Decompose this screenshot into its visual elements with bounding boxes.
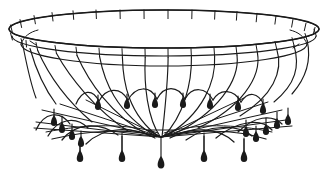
rim-inner-lip-front bbox=[12, 36, 316, 56]
rim-band-lower-front-edge bbox=[9, 29, 319, 48]
teardrop-finial bbox=[207, 94, 213, 109]
wire-basket-bowl-drawing bbox=[0, 0, 329, 175]
rim-left-notch-detail bbox=[30, 41, 36, 45]
finial-row-lower bbox=[77, 136, 247, 169]
teardrop-finial bbox=[152, 93, 158, 108]
wire-rib bbox=[165, 56, 215, 136]
rim-band-lower-back-edge bbox=[9, 10, 319, 29]
wire-rib bbox=[240, 49, 279, 116]
scallop-arc bbox=[213, 92, 241, 102]
scallop-arc bbox=[157, 89, 185, 100]
rim-band-dividers-back bbox=[11, 10, 316, 35]
teardrop-finial bbox=[285, 108, 291, 125]
wire-rib bbox=[162, 58, 168, 138]
scallop-arc bbox=[128, 89, 157, 100]
teardrop-finial bbox=[51, 109, 57, 126]
teardrop-finial bbox=[158, 137, 165, 169]
illustration-canvas: Wire Basket Bowl Line Drawing wire-frame… bbox=[0, 0, 329, 175]
teardrop-finial bbox=[260, 99, 266, 114]
rim-left-notch-divider bbox=[26, 41, 27, 48]
rim-band-group bbox=[9, 10, 319, 66]
scallop-arc bbox=[241, 94, 264, 105]
scallop-arc bbox=[76, 92, 99, 104]
scallop-arc bbox=[185, 90, 213, 100]
